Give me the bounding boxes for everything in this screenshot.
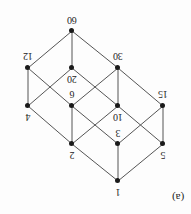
figure-caption: (a) — [172, 192, 184, 204]
node-label-6: 6 — [70, 89, 75, 99]
diagram-rotated-container: 153215106430201260 — [0, 0, 191, 214]
node-label-60: 60 — [67, 15, 77, 25]
edge-30-60 — [72, 31, 118, 68]
edge-15-30 — [118, 68, 163, 106]
edge-1-2 — [72, 144, 118, 181]
edge-1-5 — [118, 144, 163, 181]
node-label-10: 10 — [113, 112, 123, 122]
node-label-12: 12 — [23, 51, 33, 61]
node-label-2: 2 — [70, 150, 75, 160]
node-label-4: 4 — [26, 112, 31, 122]
node-label-3: 3 — [116, 128, 121, 138]
node-label-5: 5 — [161, 150, 166, 160]
edge-2-4 — [28, 106, 72, 144]
node-label-30: 30 — [113, 51, 123, 61]
edge-12-60 — [28, 31, 72, 68]
node-label-20: 20 — [67, 74, 77, 84]
node-label-15: 15 — [158, 89, 168, 99]
hasse-diagram-figure: 153215106430201260 (a) — [0, 0, 191, 214]
node-label-1: 1 — [116, 187, 121, 197]
